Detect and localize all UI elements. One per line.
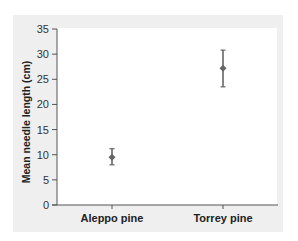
y-tick-label: 25	[37, 73, 49, 85]
y-tick-label: 35	[37, 23, 49, 35]
y-tick-label: 10	[37, 149, 49, 161]
data-point-with-error-bar	[220, 50, 227, 87]
data-points	[109, 50, 227, 165]
y-tick-label: 20	[37, 98, 49, 110]
y-axis-title: Mean needle length (cm)	[20, 61, 32, 184]
x-category-label: Torrey pine	[193, 212, 252, 224]
diamond-marker-icon	[220, 65, 227, 72]
x-axis: Aleppo pineTorrey pine	[52, 205, 278, 224]
y-tick-label: 0	[43, 199, 49, 211]
chart: 05101520253035 Aleppo pineTorrey pine Me…	[0, 0, 298, 241]
y-tick-label: 15	[37, 124, 49, 136]
x-category-label: Aleppo pine	[81, 212, 144, 224]
y-tick-label: 5	[43, 174, 49, 186]
y-axis: 05101520253035	[37, 23, 57, 211]
data-point-with-error-bar	[109, 149, 116, 165]
y-tick-label: 30	[37, 48, 49, 60]
diamond-marker-icon	[109, 154, 116, 161]
